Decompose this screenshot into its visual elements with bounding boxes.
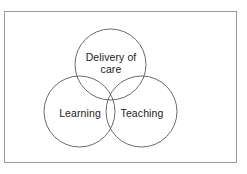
label-delivery-of-care: Delivery of care: [75, 51, 147, 75]
label-teaching: Teaching: [106, 107, 178, 119]
venn-circles-group: [0, 0, 247, 174]
venn-diagram-figure: Delivery of care Learning Teaching: [0, 0, 247, 174]
